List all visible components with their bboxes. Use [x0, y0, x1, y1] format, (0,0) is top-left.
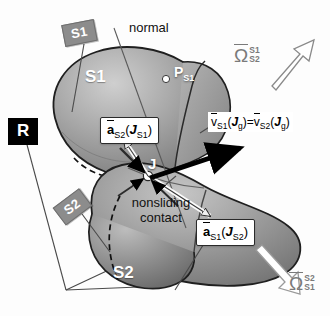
vector-label-a-s1-js2: aS1(JS2) [196, 219, 255, 246]
omega-label-s1-s2: Ω S1 S2 [234, 44, 260, 65]
nonsliding-line-1: nonsliding [122, 195, 200, 210]
v-s2-subscript: S2 [260, 121, 270, 131]
nonsliding-contact-label: nonsliding contact [122, 195, 200, 225]
reference-frame-label: R [8, 118, 38, 145]
a-s2-subscript: S2 [114, 130, 125, 140]
v-s1-arg-subscript: g [238, 121, 243, 131]
body-label-s1: S1 [85, 67, 106, 87]
a-s2-arg: J [130, 122, 137, 137]
omega-label-s2-s1: Ω S2 S1 [289, 272, 315, 293]
vector-label-a-s2-js1: aS2(JS1) [100, 117, 159, 144]
omega-s2-s1-symbol: Ω [289, 272, 303, 293]
velocity-equation: vS1(Jg)=vS2(Jg) [208, 112, 293, 132]
omega-s2-s1-subscript: S1 [304, 283, 314, 292]
v-s2-arg-subscript: g [281, 121, 286, 131]
v-s1-subscript: S1 [217, 121, 227, 131]
equals-sign: = [247, 115, 254, 129]
body-label-s2: S2 [113, 263, 134, 283]
point-ps1-marker [162, 75, 169, 82]
diagram-artwork [0, 0, 330, 316]
nonsliding-line-2: contact [122, 210, 200, 225]
a-s2-arg-subscript: S1 [137, 130, 148, 140]
a-s1-subscript: S1 [210, 232, 221, 242]
figure-canvas: R S1 S2 S1 S2 normal nonsliding contact … [0, 0, 330, 316]
a-s1-arg-subscript: S2 [233, 232, 244, 242]
point-ps1-label: PS1 [174, 64, 194, 83]
point-ps1-symbol: P [174, 64, 183, 80]
point-ps1-subscript: S1 [183, 73, 194, 83]
omega-s1-s2-symbol: Ω [234, 44, 248, 65]
omega-s1-s2-subscript: S2 [249, 55, 259, 64]
omega-s1-s2-arrow [272, 40, 314, 90]
contact-point-label: J [148, 155, 156, 172]
v-s2-arg: J [274, 115, 281, 129]
a-s1-arg: J [226, 224, 233, 239]
normal-label: normal [129, 20, 169, 35]
